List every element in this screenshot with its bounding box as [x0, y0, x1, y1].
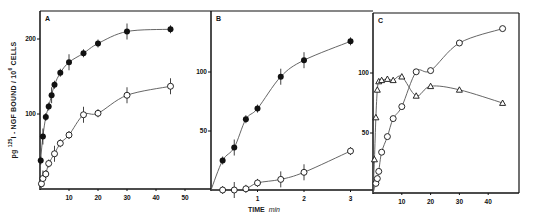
x-tick-label: 20: [427, 198, 435, 205]
data-point-filled-circle: [57, 70, 63, 76]
data-point-open-circle: [168, 83, 174, 89]
x-axis-label-main: TIME: [248, 206, 265, 213]
series-line: [40, 86, 171, 189]
x-tick-label: 20: [94, 194, 102, 201]
x-tick-label: 3: [349, 195, 353, 202]
data-point-filled-circle: [81, 50, 87, 56]
x-axis-label: TIMEmin: [248, 206, 280, 213]
data-point-open-circle: [124, 92, 130, 98]
data-point-open-circle: [384, 134, 390, 140]
series-line: [373, 76, 503, 193]
data-point-open-circle: [66, 132, 72, 138]
data-point-filled-circle: [243, 116, 249, 122]
data-point-open-circle: [57, 140, 63, 146]
data-point-filled-circle: [52, 82, 58, 88]
data-point-filled-circle: [301, 57, 307, 63]
data-point-open-circle: [231, 187, 237, 193]
y-tick-label: 200: [25, 35, 36, 42]
y-tick-label: 50: [200, 127, 208, 134]
data-point-open-circle: [301, 169, 307, 175]
data-point-open-circle: [43, 171, 49, 177]
data-point-filled-circle: [66, 59, 72, 65]
x-tick-label: 30: [456, 198, 464, 205]
data-point-open-circle: [379, 149, 385, 155]
data-point-filled-circle: [124, 29, 130, 35]
data-point-filled-circle: [43, 114, 49, 120]
y-tick-label: 50: [362, 129, 370, 136]
data-point-open-circle: [390, 116, 396, 122]
data-point-open-circle: [413, 69, 419, 75]
data-point-open-circle: [52, 151, 58, 157]
series-line: [211, 41, 351, 190]
y-tick-label: 100: [25, 110, 36, 117]
panel-b: B12350100: [196, 11, 373, 202]
x-tick-label: 40: [485, 198, 493, 205]
data-point-filled-circle: [255, 106, 261, 112]
panel-label: B: [216, 15, 221, 22]
data-point-open-circle: [500, 26, 506, 32]
data-point-open-circle: [399, 104, 405, 110]
x-tick-label: 10: [65, 194, 73, 201]
figure-canvas: A1020304050100200B12350100C1020304050100: [0, 0, 535, 219]
data-point-filled-circle: [168, 26, 174, 32]
data-point-open-circle: [456, 40, 462, 46]
data-point-filled-circle: [40, 134, 46, 140]
data-point-open-circle: [348, 148, 354, 154]
data-point-open-circle: [81, 112, 87, 118]
x-tick-label: 50: [181, 194, 189, 201]
data-point-open-circle: [255, 180, 261, 186]
data-point-filled-circle: [95, 41, 101, 47]
data-point-open-circle: [243, 186, 249, 192]
panel-label: C: [378, 17, 383, 24]
x-tick-label: 2: [302, 195, 306, 202]
panel-c: C1020304050100: [358, 13, 519, 205]
data-point-open-circle: [376, 168, 382, 174]
data-point-open-circle: [278, 176, 284, 182]
data-point-filled-circle: [49, 92, 55, 98]
x-axis-label-unit: min: [269, 206, 280, 213]
panel-label: A: [45, 15, 50, 22]
data-point-open-circle: [428, 68, 434, 74]
data-point-filled-circle: [278, 74, 284, 80]
data-point-open-triangle: [384, 76, 390, 81]
data-point-filled-circle: [46, 104, 52, 110]
data-point-open-circle: [374, 176, 380, 182]
y-tick-label: 100: [196, 68, 207, 75]
data-point-open-triangle: [373, 114, 379, 119]
x-tick-label: 40: [152, 194, 160, 201]
x-tick-label: 10: [398, 198, 406, 205]
x-tick-label: 30: [123, 194, 131, 201]
data-point-filled-circle: [38, 158, 44, 164]
panel-a: A1020304050100200: [25, 11, 211, 201]
data-point-filled-circle: [348, 38, 354, 44]
data-point-filled-circle: [220, 158, 226, 164]
data-point-open-circle: [95, 110, 101, 116]
y-tick-label: 100: [358, 69, 369, 76]
x-tick-label: 1: [256, 195, 260, 202]
data-point-open-triangle: [374, 87, 380, 92]
data-point-open-circle: [220, 187, 226, 193]
series-line: [373, 29, 503, 193]
data-point-filled-circle: [231, 145, 237, 151]
data-point-open-circle: [46, 161, 52, 167]
